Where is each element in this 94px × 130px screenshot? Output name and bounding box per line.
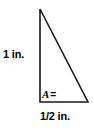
area-label: A=	[42, 89, 56, 100]
triangle-figure-screenshot: 1 in. A= 1/2 in.	[0, 0, 94, 130]
base-label: 1/2 in.	[40, 111, 70, 122]
area-equals-sign: =	[50, 89, 56, 100]
height-label: 1 in.	[3, 49, 24, 60]
area-variable: A	[42, 88, 49, 100]
